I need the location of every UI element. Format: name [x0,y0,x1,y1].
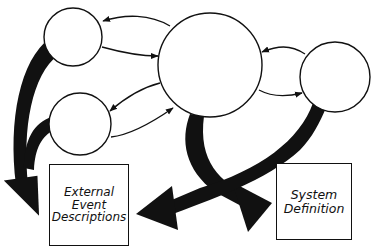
process-circle-b [49,93,111,155]
arrow-c-to-a [103,16,170,26]
box-label-line: System [291,188,338,201]
arrow-c-to-b [110,83,160,111]
arrow-a-to-c [102,47,158,56]
arrow-d-to-c [262,47,305,54]
arrow-b-to-c [111,108,173,137]
arrow-c-to-d [259,90,302,96]
process-circle-c [158,13,262,117]
external-event-descriptions-box: External Event Descriptions [49,164,129,246]
box-label-line: External [64,186,114,199]
box-label-line: Definition [284,202,345,215]
box-label-line: Descriptions [52,211,127,224]
process-circle-d [300,42,370,112]
process-circle-a [44,8,102,66]
system-definition-box: System Definition [276,163,352,240]
